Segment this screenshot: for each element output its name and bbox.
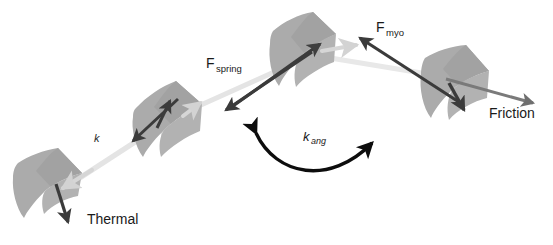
label-f-myo-base: F: [376, 19, 385, 35]
bead-2: [132, 81, 202, 157]
label-f-myo-sub: myo: [386, 27, 404, 38]
force-diagram-svg: F spring F myo Friction Thermal k k ang: [0, 0, 553, 245]
label-k: k: [94, 132, 100, 144]
label-f-spring-base: F: [206, 55, 215, 71]
label-k-ang-sub: ang: [311, 136, 326, 146]
label-f-spring-sub: spring: [216, 63, 242, 74]
label-f-spring: F spring: [206, 55, 242, 74]
label-friction: Friction: [489, 105, 535, 121]
label-thermal: Thermal: [87, 211, 138, 227]
label-k-ang-base: k: [303, 129, 311, 144]
label-k-ang: k ang: [303, 129, 326, 146]
diagram-root: F spring F myo Friction Thermal k k ang: [0, 0, 553, 245]
label-f-myo: F myo: [376, 19, 404, 38]
filament-backbone: [52, 55, 452, 196]
